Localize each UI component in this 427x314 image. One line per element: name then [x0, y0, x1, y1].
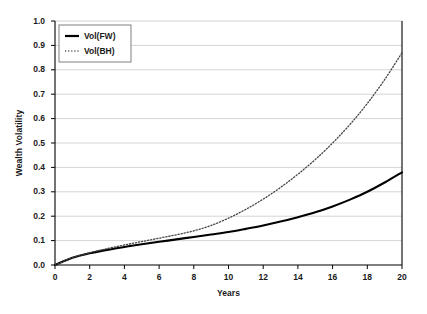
data-series-layer — [55, 53, 402, 265]
series-line-volbh — [55, 53, 402, 265]
plot-area: Vol(FW)Vol(BH) — [0, 0, 427, 314]
legend-label: Vol(BH) — [84, 46, 115, 56]
chart-container: Wealth Volatility Years 0.00.10.20.30.40… — [0, 0, 427, 314]
chart-legend: Vol(FW)Vol(BH) — [59, 25, 131, 62]
legend-label: Vol(FW) — [84, 31, 116, 41]
y-tick-marks — [51, 21, 55, 265]
x-tick-marks — [55, 265, 402, 269]
